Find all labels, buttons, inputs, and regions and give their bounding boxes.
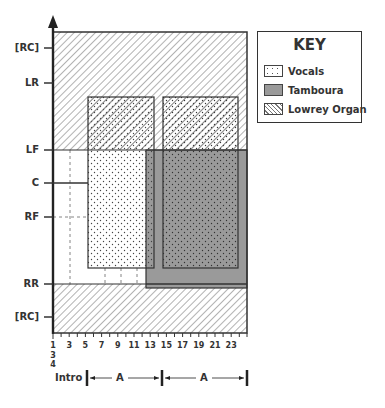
y-label-lf: LF <box>9 144 39 155</box>
x-tick-19: 19 <box>193 341 204 350</box>
y-axis-arrow-icon <box>48 15 58 28</box>
legend-item-vocals: Vocals <box>264 64 324 78</box>
y-label-lr: LR <box>9 77 39 88</box>
section-intro: Intro <box>55 372 82 383</box>
x-tick-9: 9 <box>115 341 121 350</box>
y-label-rr: RR <box>9 278 39 289</box>
y-label-rc-top: [RC] <box>9 42 39 53</box>
y-label-c: C <box>9 177 39 188</box>
x-tick-13: 13 <box>145 341 156 350</box>
x-tick-17: 17 <box>177 341 188 350</box>
x-tick-21: 21 <box>209 341 220 350</box>
legend-label-organ: Lowrey Organ <box>288 104 367 115</box>
organ-region-bottom <box>53 284 247 333</box>
x-ticks <box>53 333 247 339</box>
section-a-2: A <box>200 372 208 383</box>
y-label-rc-bottom: [RC] <box>9 311 39 322</box>
x-tick-11: 11 <box>128 341 139 350</box>
section-a-1: A <box>116 372 124 383</box>
legend-item-organ: Lowrey Organ <box>264 102 367 116</box>
hatch-swatch-icon <box>264 103 283 115</box>
dots-swatch-icon <box>264 65 283 77</box>
x-tick-5: 5 <box>83 341 89 350</box>
x-tick-15: 15 <box>161 341 172 350</box>
x-tick-3: 3 <box>66 341 72 350</box>
legend-label-tamboura: Tamboura <box>288 85 344 96</box>
legend-key: KEY Vocals Tamboura Lowrey Organ <box>257 31 362 123</box>
solid-swatch-icon <box>264 84 283 96</box>
y-label-rf: RF <box>9 211 39 222</box>
meter-bottom: 4 <box>50 360 56 369</box>
meter-top: 3 <box>50 351 56 360</box>
legend-label-vocals: Vocals <box>288 66 324 77</box>
x-tick-1: 1 <box>50 341 56 350</box>
legend-item-tamboura: Tamboura <box>264 83 344 97</box>
x-tick-7: 7 <box>99 341 105 350</box>
legend-title: KEY <box>258 36 361 54</box>
x-tick-23: 23 <box>226 341 237 350</box>
